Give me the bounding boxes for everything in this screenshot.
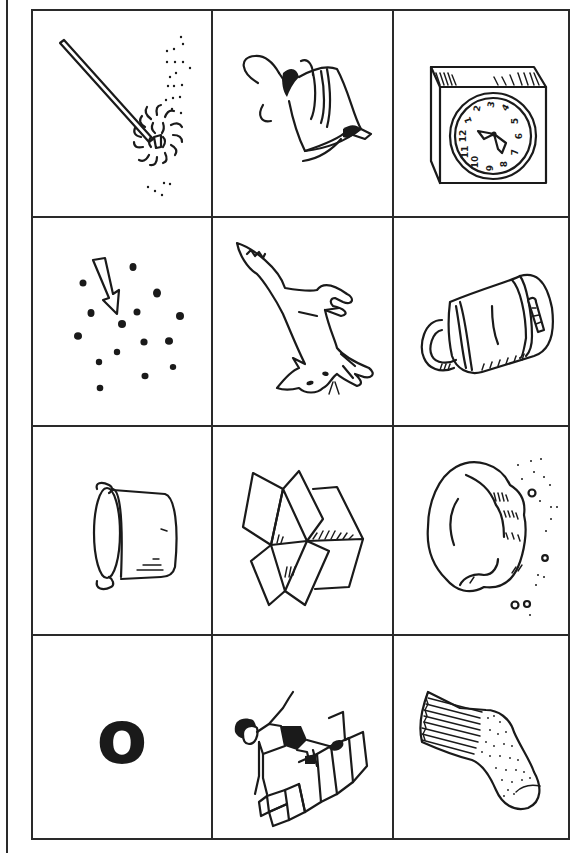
cell-fox[interactable]: Fox <box>213 218 392 425</box>
picture-grid: Mop Spinnin <box>31 9 570 840</box>
clock-numeral: 9 <box>485 165 495 171</box>
page-margin-line <box>6 0 8 853</box>
hopscotch-icon <box>213 636 392 840</box>
letter-o: o <box>33 700 211 774</box>
cell-clock[interactable]: Clock 1 2 3 4 5 6 7 8 9 10 <box>394 11 572 216</box>
clock-numeral: 12 <box>458 130 468 143</box>
cell-rock[interactable]: Rock <box>394 427 572 634</box>
cell-hopscotch[interactable]: Hopscotch <box>213 636 392 840</box>
cell-pot[interactable]: Pot <box>33 427 211 634</box>
pot-icon <box>33 427 211 634</box>
cell-letter-o[interactable]: o <box>33 636 211 840</box>
clock-numeral: 2 <box>472 105 483 113</box>
cell-dots[interactable]: Dots <box>33 218 211 425</box>
clock-numeral: 4 <box>500 102 512 112</box>
clock-icon: 1 2 3 4 5 6 7 8 9 10 11 12 <box>394 11 572 216</box>
spinning-top-icon <box>213 11 392 216</box>
box-icon <box>213 427 392 634</box>
rock-icon <box>394 427 572 634</box>
clock-numeral: 11 <box>460 146 470 159</box>
clock-numeral: 10 <box>470 156 480 169</box>
dots-with-arrow-icon <box>33 218 211 425</box>
cell-box[interactable]: Box <box>213 427 392 634</box>
clock-numeral: 3 <box>486 101 497 109</box>
fox-icon <box>213 218 392 425</box>
cell-sock[interactable]: Sock <box>394 636 572 840</box>
cell-spinning-top[interactable]: Spinning top <box>213 11 392 216</box>
mop-icon <box>33 11 211 216</box>
clock-numeral: 7 <box>510 149 520 155</box>
clock-numeral: 5 <box>510 118 520 124</box>
clock-numeral: 8 <box>499 161 509 167</box>
sock-icon <box>394 636 572 840</box>
cell-padlock[interactable]: Padlock <box>394 218 572 425</box>
clock-numeral: 1 <box>462 115 474 124</box>
cell-mop[interactable]: Mop <box>33 11 211 216</box>
padlock-icon <box>394 218 572 425</box>
clock-numeral: 6 <box>514 133 524 139</box>
